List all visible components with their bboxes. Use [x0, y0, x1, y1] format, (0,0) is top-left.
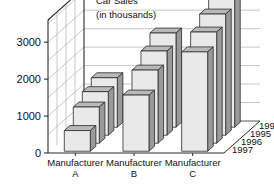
bar-side-face — [226, 9, 232, 135]
bar-1997-manufacturer-b — [123, 90, 155, 151]
chart-title: Car Sales — [96, 0, 138, 6]
bar-side-face — [235, 0, 241, 127]
bar-1997-manufacturer-a — [64, 126, 96, 152]
bar-front-face — [64, 131, 90, 152]
bar-side-face — [99, 102, 105, 143]
category-label-line2: C — [189, 168, 196, 179]
depth-axis-label-1997: 1997 — [232, 144, 253, 155]
category-label-line1: Manufacturer — [165, 157, 221, 168]
bar-side-face — [108, 87, 114, 136]
category-label-line2: A — [72, 168, 79, 179]
bar-side-face — [90, 126, 96, 152]
bar-side-face — [149, 90, 155, 151]
y-tick-label: 3000 — [17, 36, 41, 48]
bar-front-face — [182, 52, 208, 151]
bar-side-face — [158, 65, 164, 143]
bar-front-face — [123, 95, 149, 151]
bar-side-face — [167, 46, 173, 135]
bar-chart-3d: 0100020003000ManufacturerAManufacturerBM… — [0, 0, 274, 186]
y-tick-label: 2000 — [17, 73, 41, 85]
chart-container: 0100020003000ManufacturerAManufacturerBM… — [0, 0, 274, 186]
bar-side-face — [208, 47, 214, 151]
chart-subtitle: (in thousands) — [96, 9, 156, 20]
y-tick-label: 1000 — [17, 110, 41, 122]
bar-side-face — [217, 27, 223, 143]
category-label-line1: Manufacturer — [47, 157, 103, 168]
bar-side-face — [117, 73, 123, 127]
bar-side-face — [176, 28, 182, 127]
bar-1997-manufacturer-c — [182, 47, 214, 151]
category-label-line2: B — [131, 168, 137, 179]
y-tick-label: 0 — [35, 147, 41, 159]
category-label-line1: Manufacturer — [106, 157, 162, 168]
